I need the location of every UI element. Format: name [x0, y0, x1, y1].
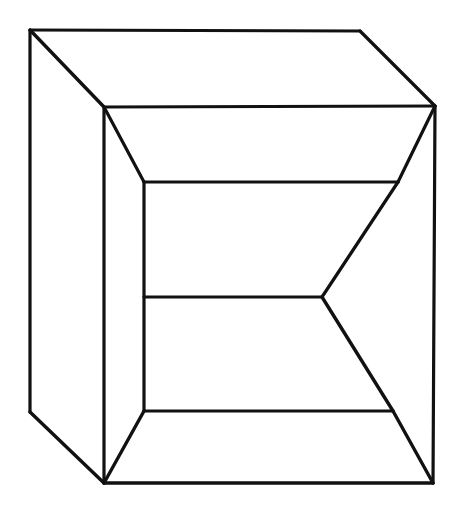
box-drawing-svg: [0, 0, 463, 507]
face-left-outer: [30, 30, 104, 483]
edge-rim-top-horizontal: [104, 106, 435, 107]
edge-outer-top: [30, 30, 360, 31]
face-interior: [104, 106, 435, 483]
figure-canvas: [0, 0, 463, 507]
edge-outer-right: [433, 106, 435, 483]
